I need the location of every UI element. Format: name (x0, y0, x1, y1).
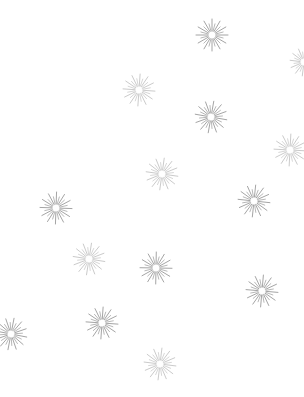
starburst-icon (244, 273, 280, 309)
starburst-icon (144, 156, 180, 192)
starburst-icon (236, 183, 272, 219)
starburst-icon (121, 72, 157, 108)
starburst-icon (71, 241, 107, 277)
starburst-icon (142, 346, 178, 382)
starburst-icon (194, 17, 230, 53)
starburst-icon (272, 132, 304, 168)
starburst-icon (38, 190, 74, 226)
starburst-pattern-background (0, 0, 304, 397)
starburst-icon (193, 99, 229, 135)
starburst-icon (138, 250, 174, 286)
starburst-icon (84, 305, 120, 341)
starburst-icon (0, 316, 29, 352)
starburst-icon (288, 46, 304, 78)
